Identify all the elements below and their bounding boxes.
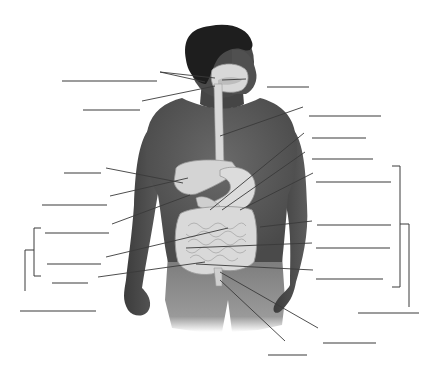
digestive-system-diagram	[0, 0, 442, 374]
human-figure	[124, 25, 307, 332]
esophagus	[214, 84, 224, 170]
diagram-canvas	[0, 0, 442, 374]
